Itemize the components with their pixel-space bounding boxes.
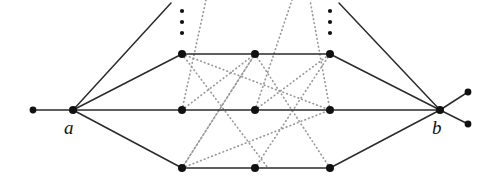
ellipsis-dot-1 — [180, 20, 184, 24]
graph-canvas — [0, 0, 496, 178]
node-n-top-2 — [251, 50, 259, 58]
pendant-node-p-left — [30, 107, 37, 114]
solid-edge-e-b-pendant-down — [440, 110, 468, 124]
solid-edge-e-a-trail-up — [73, 3, 171, 110]
solid-edge-e-b-pendant-up — [440, 92, 468, 110]
vertex-label-b: b — [432, 118, 442, 137]
dotted-edge-d-5 — [182, 110, 330, 168]
node-n-mid-1 — [178, 106, 186, 114]
hub-node-b — [436, 106, 444, 114]
node-n-bot-3 — [326, 164, 334, 172]
vertex-label-a: a — [64, 118, 74, 137]
dotted-edge-layer — [182, 0, 330, 168]
node-n-mid-2 — [251, 106, 259, 114]
solid-edge-layer — [33, 3, 468, 168]
dotted-edge-d-2 — [182, 54, 330, 110]
ellipsis-dot-3 — [328, 9, 332, 13]
solid-edge-e-b-trail-up — [339, 3, 440, 110]
node-n-top-3 — [326, 50, 334, 58]
dotted-edge-d-11 — [255, 54, 330, 110]
pendant-node-p-right-lower — [465, 121, 472, 128]
hub-node-a — [69, 106, 77, 114]
node-n-top-1 — [178, 50, 186, 58]
solid-edge-e-a-top1 — [73, 54, 182, 110]
ellipsis-dot-2 — [180, 31, 184, 35]
ellipsis-dot-4 — [328, 20, 332, 24]
solid-edge-e-bot3-b — [330, 110, 440, 168]
node-n-mid-3 — [326, 106, 334, 114]
pendant-node-p-right-upper — [465, 89, 472, 96]
graph-figure: a b — [0, 0, 496, 178]
solid-edge-e-top3-b — [330, 54, 440, 110]
node-n-bot-2 — [251, 164, 259, 172]
node-n-bot-1 — [178, 164, 186, 172]
ellipsis-dot-0 — [180, 9, 184, 13]
node-layer — [30, 50, 472, 172]
ellipsis-dot-5 — [328, 31, 332, 35]
solid-edge-e-a-bot1 — [73, 110, 182, 168]
